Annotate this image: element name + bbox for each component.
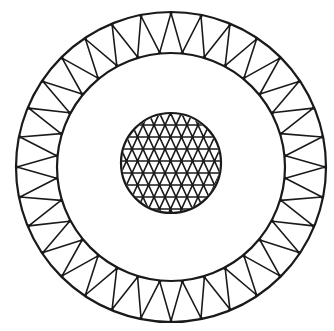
ring-and-disc-diagram — [0, 0, 334, 331]
inner-triangulated-disc — [99, 101, 248, 233]
inner-ring-edge — [57, 53, 285, 281]
outer-triangulated-ring — [15, 11, 326, 322]
diagram-canvas — [0, 0, 334, 331]
